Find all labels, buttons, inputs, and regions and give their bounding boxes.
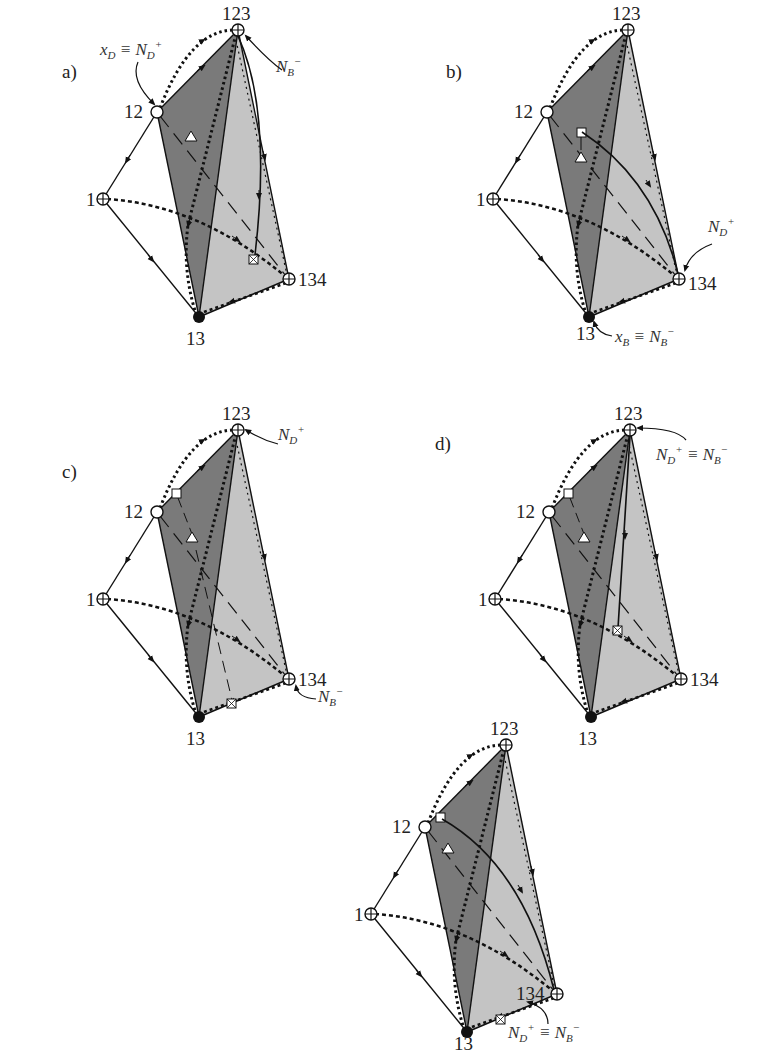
annotation-ND-plus: ND+ — [277, 423, 305, 446]
label-12: 12 — [124, 501, 143, 522]
label-134: 134 — [298, 269, 327, 290]
label-13: 13 — [454, 1033, 473, 1054]
panel-label-a: a) — [62, 61, 77, 83]
annotation-ND-plus-NB-minus: ND+ ≡ NB− — [507, 1021, 580, 1044]
annotation-ND-plus-NB-minus: ND+ ≡ NB− — [655, 443, 728, 466]
panel-label-d: d) — [435, 433, 451, 455]
label-13: 13 — [186, 728, 205, 749]
label-13: 13 — [576, 323, 595, 344]
label-12: 12 — [124, 101, 143, 122]
label-1: 1 — [478, 589, 488, 610]
panel-label-c: c) — [62, 461, 77, 483]
label-134: 134 — [516, 983, 545, 1004]
label-13: 13 — [578, 728, 597, 749]
square-marker — [564, 489, 573, 498]
label-123: 123 — [612, 3, 641, 24]
square-marker — [172, 489, 181, 498]
label-1: 1 — [476, 189, 486, 210]
label-1: 1 — [354, 904, 364, 925]
label-134: 134 — [690, 669, 719, 690]
label-134: 134 — [688, 273, 717, 294]
label-1: 1 — [86, 189, 96, 210]
panel-label-b: b) — [446, 61, 462, 83]
label-1: 1 — [86, 589, 96, 610]
panel-d — [489, 424, 687, 723]
label-12: 12 — [392, 816, 411, 837]
panel-b — [487, 24, 685, 323]
label-12: 12 — [514, 101, 533, 122]
label-123: 123 — [614, 403, 643, 424]
label-123: 123 — [222, 403, 251, 424]
panel-a — [97, 24, 295, 323]
label-123: 123 — [222, 3, 251, 24]
figure-canvas: 123 12 1 134 13 123 12 1 134 13 123 12 1… — [0, 0, 760, 1062]
annotation-NB-minus: NB− — [275, 55, 302, 78]
label-12: 12 — [516, 501, 535, 522]
annotation-xB-NB-minus: xB ≡ NB− — [614, 325, 675, 348]
annotation-xD-ND-plus: xD ≡ ND+ — [99, 38, 162, 61]
label-123: 123 — [490, 718, 519, 739]
annotation-ND-plus: ND+ — [707, 215, 735, 238]
annotation-NB-minus: NB− — [317, 685, 344, 708]
square-marker — [577, 128, 586, 137]
label-13: 13 — [186, 328, 205, 349]
panel-c — [97, 424, 295, 723]
